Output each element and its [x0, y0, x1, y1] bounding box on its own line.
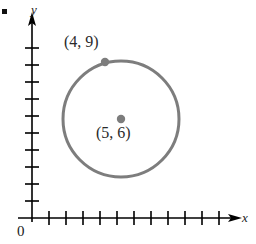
- circle-coordinate-plane-figure: (4, 9) (5, 6) y x 0: [0, 0, 256, 244]
- origin-label: 0: [17, 224, 25, 239]
- x-axis-group: [18, 211, 242, 225]
- point-marker-center: [117, 115, 125, 123]
- y-axis-group: [25, 12, 39, 222]
- y-axis-label: y: [31, 3, 37, 16]
- point-marker-on-circle: [101, 58, 109, 66]
- point-label-on-circle: (4, 9): [64, 34, 99, 50]
- coordinate-plane-svg: [0, 0, 256, 244]
- point-label-center: (5, 6): [96, 125, 131, 141]
- stray-mark: [2, 9, 7, 14]
- x-axis-label: x: [242, 211, 248, 224]
